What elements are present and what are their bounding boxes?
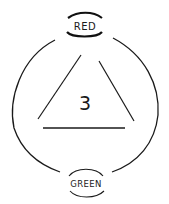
outer-circle-right-arc	[112, 38, 158, 172]
red-label: RED	[74, 21, 96, 32]
green-label: GREEN	[70, 179, 102, 189]
center-number: 3	[79, 92, 91, 114]
triangle-right-side	[99, 61, 134, 121]
red-label-bottom-arc	[67, 32, 102, 37]
outer-circle-left-arc	[13, 40, 60, 172]
diagram-canvas: RED 3 GREEN	[0, 0, 169, 204]
triangle-left-side	[38, 55, 81, 119]
green-label-top-arc	[69, 169, 103, 176]
red-label-top-arc	[68, 13, 102, 18]
green-label-bottom-arc	[70, 191, 104, 197]
